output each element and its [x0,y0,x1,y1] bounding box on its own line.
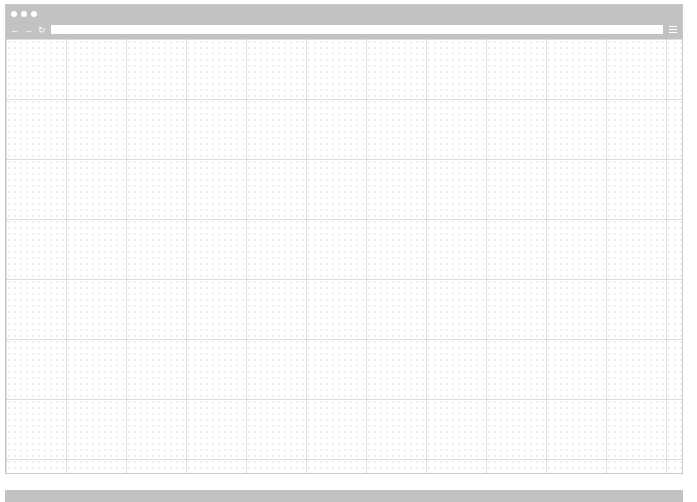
minimize-window-button[interactable] [21,11,27,17]
hamburger-menu-icon[interactable] [669,25,677,34]
window-controls [11,11,37,17]
close-window-button[interactable] [11,11,17,17]
browser-window: ← → ↻ [5,4,683,474]
second-browser-window-toolbar [5,490,683,502]
page-content-grid [6,39,682,473]
reload-icon[interactable]: ↻ [38,25,46,35]
browser-toolbar: ← → ↻ [6,5,682,39]
maximize-window-button[interactable] [31,11,37,17]
forward-arrow-icon[interactable]: → [24,25,33,35]
navigation-buttons: ← → ↻ [10,25,46,35]
back-arrow-icon[interactable]: ← [10,25,19,35]
address-bar-input[interactable] [51,25,663,34]
